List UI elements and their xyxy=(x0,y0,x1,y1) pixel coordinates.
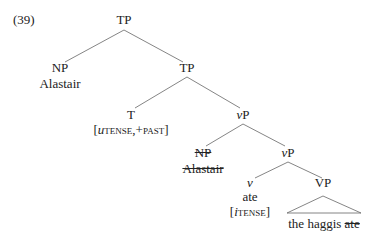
vp-lower-node: vP xyxy=(281,146,294,160)
tp-mid-node: TP xyxy=(179,61,194,75)
np-trace-node: NP xyxy=(195,146,212,160)
root-tp-node: TP xyxy=(116,13,131,27)
t-head-node: T xyxy=(127,108,135,122)
v-head-node: v xyxy=(247,176,253,190)
tree-branches xyxy=(0,0,374,241)
vp-phrase-node: VP xyxy=(315,176,332,190)
np-subject-word: Alastair xyxy=(39,77,80,91)
v-features: [itense] xyxy=(230,205,270,219)
np-trace-word: Alastair xyxy=(182,162,223,176)
vp-content: the haggis ate xyxy=(288,217,359,231)
t-features: [utense,+past] xyxy=(94,123,169,137)
np-subject-node: NP xyxy=(52,61,69,75)
vp-upper-node: vP xyxy=(236,108,249,122)
v-word: ate xyxy=(242,190,257,204)
